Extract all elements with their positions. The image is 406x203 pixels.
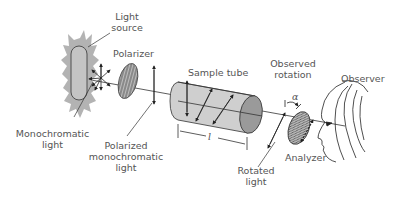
- label-text: Analyzer: [285, 152, 326, 163]
- label-text: α: [292, 91, 298, 102]
- observer-icon: [318, 80, 368, 162]
- label-observed-rotation: Observed rotation: [268, 58, 318, 80]
- label-text: l: [208, 131, 211, 142]
- label-observer: Observer: [341, 73, 385, 84]
- label-line: light: [15, 139, 90, 150]
- label-polarizer: Polarizer: [113, 48, 154, 59]
- label-text: Observer: [341, 73, 385, 84]
- label-polarized-monochromatic-light: Polarized monochromatic light: [88, 140, 164, 173]
- label-light-source: Light source: [107, 11, 147, 33]
- label-monochromatic-light: Monochromatic light: [15, 128, 90, 150]
- label-line: monochromatic: [88, 151, 164, 162]
- label-line: light: [88, 162, 164, 173]
- lamp-icon: [71, 46, 87, 100]
- label-line: Light: [107, 11, 147, 22]
- label-line: rotation: [268, 69, 318, 80]
- label-line: source: [107, 22, 147, 33]
- label-rotated-light: Rotated light: [236, 165, 276, 187]
- label-text: Polarizer: [113, 48, 154, 59]
- label-line: light: [236, 176, 276, 187]
- label-sample-tube: Sample tube: [188, 67, 248, 78]
- label-line: Rotated: [236, 165, 276, 176]
- label-analyzer: Analyzer: [285, 152, 326, 163]
- polarizer-icon: [115, 61, 142, 100]
- label-line: Polarized: [88, 140, 164, 151]
- light-source: [61, 30, 99, 118]
- analyzer-icon: [284, 109, 314, 148]
- label-alpha: α: [292, 91, 298, 102]
- sample-tube: [170, 81, 265, 135]
- label-line: Monochromatic: [15, 128, 90, 139]
- label-text: Sample tube: [188, 67, 248, 78]
- label-line: Observed: [268, 58, 318, 69]
- polarimeter-diagram: [0, 0, 406, 203]
- label-tube-length: l: [208, 131, 211, 142]
- rotated-light-arrow-down: [268, 117, 283, 148]
